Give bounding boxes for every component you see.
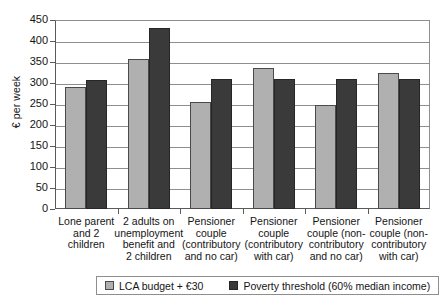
bar-s1-c1 <box>149 28 170 209</box>
bar-group-4 <box>315 20 357 209</box>
x-tick-mark-4 <box>305 209 306 214</box>
bar-group-2 <box>190 20 232 209</box>
bar-s0-c5 <box>378 73 399 210</box>
chart-legend: LCA budget + €30 Poverty threshold (60% … <box>96 276 439 295</box>
y-tick-label-0: 0 <box>8 203 48 214</box>
y-tick-label-250: 250 <box>8 98 48 109</box>
legend-item-1: Poverty threshold (60% median income) <box>229 280 430 292</box>
bar-s0-c0 <box>65 87 86 209</box>
bar-s1-c4 <box>336 79 357 209</box>
x-tick-mark-5 <box>368 209 369 214</box>
y-tick-label-100: 100 <box>8 161 48 172</box>
bar-s0-c2 <box>190 102 211 209</box>
y-tick-mark-0 <box>50 209 55 210</box>
legend-item-0: LCA budget + €30 <box>105 280 203 292</box>
x-tick-mark-3 <box>243 209 244 214</box>
bar-s1-c0 <box>86 80 107 209</box>
y-tick-label-450: 450 <box>8 14 48 25</box>
bar-s0-c4 <box>315 105 336 209</box>
y-tick-label-300: 300 <box>8 77 48 88</box>
bar-s1-c3 <box>274 79 295 209</box>
bar-s1-c2 <box>211 79 232 209</box>
bar-group-0 <box>65 20 107 209</box>
y-tick-label-50: 50 <box>8 182 48 193</box>
bar-group-5 <box>378 20 420 209</box>
x-label-5: Pensionercouple (non-contributorywith ca… <box>363 216 436 262</box>
bar-s1-c5 <box>399 79 420 209</box>
y-tick-label-400: 400 <box>8 35 48 46</box>
bar-group-3 <box>253 20 295 209</box>
bars-layer <box>55 20 430 209</box>
legend-label-poverty-threshold: Poverty threshold (60% median income) <box>243 280 430 292</box>
legend-label-lca-budget: LCA budget + €30 <box>119 280 203 292</box>
y-tick-label-200: 200 <box>8 119 48 130</box>
bar-s0-c3 <box>253 68 274 209</box>
bar-chart: € per week 450400350300250200150100500 L… <box>0 0 444 307</box>
y-tick-label-350: 350 <box>8 56 48 67</box>
legend-swatch-poverty-threshold <box>229 281 238 290</box>
x-tick-mark-2 <box>180 209 181 214</box>
bar-group-1 <box>128 20 170 209</box>
y-tick-label-150: 150 <box>8 140 48 151</box>
x-tick-mark-1 <box>118 209 119 214</box>
bar-s0-c1 <box>128 59 149 209</box>
legend-swatch-lca-budget <box>105 281 114 290</box>
